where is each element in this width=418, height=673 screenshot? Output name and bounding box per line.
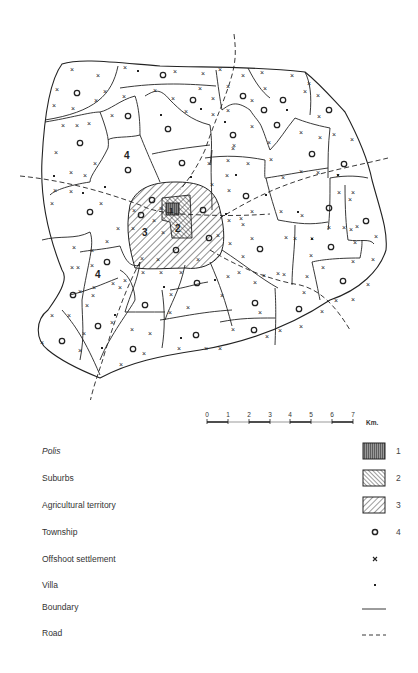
- svg-text:×: ×: [153, 87, 157, 94]
- svg-text:×: ×: [299, 323, 303, 330]
- svg-text:×: ×: [122, 93, 126, 100]
- svg-text:×: ×: [50, 200, 54, 207]
- svg-text:×: ×: [78, 288, 82, 295]
- svg-text:×: ×: [351, 258, 355, 265]
- svg-text:×: ×: [250, 123, 254, 130]
- svg-text:×: ×: [246, 160, 250, 167]
- svg-text:×: ×: [93, 160, 97, 167]
- svg-text:×: ×: [316, 92, 320, 99]
- svg-text:×: ×: [173, 68, 177, 75]
- svg-text:×: ×: [90, 247, 94, 254]
- scale-tick-2: 2: [247, 411, 251, 418]
- svg-text:×: ×: [320, 308, 324, 315]
- svg-text:×: ×: [131, 225, 135, 232]
- svg-text:×: ×: [118, 284, 122, 291]
- svg-text:×: ×: [269, 156, 273, 163]
- solid-line-icon: [362, 598, 386, 616]
- svg-text:×: ×: [198, 85, 202, 92]
- svg-text:×: ×: [78, 347, 82, 354]
- svg-text:×: ×: [227, 187, 231, 194]
- svg-text:×: ×: [67, 312, 71, 319]
- svg-text:×: ×: [279, 208, 283, 215]
- legend-number: 3: [396, 500, 401, 510]
- svg-text:×: ×: [90, 262, 94, 269]
- region-label-township-north: 4: [124, 150, 130, 161]
- svg-text:×: ×: [132, 207, 136, 214]
- svg-text:×: ×: [110, 112, 114, 119]
- legend-item-polis: Polis 1: [0, 442, 418, 462]
- svg-text:×: ×: [218, 345, 222, 352]
- svg-text:×: ×: [50, 312, 54, 319]
- svg-text:×: ×: [54, 149, 58, 156]
- svg-text:×: ×: [305, 273, 309, 280]
- svg-text:×: ×: [351, 189, 355, 196]
- svg-text:×: ×: [316, 169, 320, 176]
- svg-text:×: ×: [53, 187, 57, 194]
- svg-text:×: ×: [123, 277, 127, 284]
- svg-text:×: ×: [96, 72, 100, 79]
- svg-text:×: ×: [179, 269, 183, 276]
- svg-text:×: ×: [218, 66, 222, 73]
- svg-text:×: ×: [69, 188, 73, 195]
- svg-text:×: ×: [349, 226, 353, 233]
- svg-text:×: ×: [159, 269, 163, 276]
- legend-item-township: Township 4: [0, 523, 418, 543]
- svg-text:×: ×: [111, 280, 115, 287]
- legend-label: Township: [42, 527, 77, 537]
- svg-text:×: ×: [177, 345, 181, 352]
- scale-tick-0: 0: [205, 411, 209, 418]
- svg-text:×: ×: [309, 252, 313, 259]
- legend-number: 2: [396, 473, 401, 483]
- svg-text:×: ×: [72, 244, 76, 251]
- legend-label: Offshoot settlement: [42, 554, 116, 564]
- svg-text:×: ×: [226, 107, 230, 114]
- svg-text:×: ×: [260, 69, 264, 76]
- svg-text:×: ×: [70, 264, 74, 271]
- svg-text:×: ×: [299, 168, 303, 175]
- region-label-agricultural: 3: [142, 227, 148, 238]
- svg-text:×: ×: [276, 270, 280, 277]
- region-label-township-west: 4: [95, 269, 101, 280]
- legend-item-agricultural-territory: Agricultural territory 3: [0, 496, 418, 516]
- legend-item-road: Road: [0, 624, 418, 644]
- svg-text:×: ×: [374, 233, 378, 240]
- svg-text:×: ×: [318, 134, 322, 141]
- svg-text:×: ×: [299, 129, 303, 136]
- svg-text:×: ×: [87, 120, 91, 127]
- svg-text:×: ×: [282, 271, 286, 278]
- territory-map: 1 2 3 4 4 ×××× ×××× ×××× ×××× ×××× ×××: [0, 0, 418, 400]
- svg-text:×: ×: [284, 234, 288, 241]
- svg-text:×: ×: [225, 172, 229, 179]
- svg-text:×: ×: [366, 281, 370, 288]
- svg-text:×: ×: [61, 122, 65, 129]
- svg-text:×: ×: [91, 292, 95, 299]
- legend-number: 4: [396, 527, 401, 537]
- legend-label: Polis: [42, 446, 60, 456]
- svg-text:×: ×: [237, 269, 241, 276]
- svg-text:×: ×: [241, 72, 245, 79]
- svg-text:×: ×: [152, 217, 156, 224]
- svg-text:×: ×: [265, 333, 269, 340]
- svg-text:×: ×: [348, 196, 352, 203]
- svg-text:×: ×: [99, 200, 103, 207]
- svg-text:×: ×: [211, 111, 215, 118]
- svg-text:×: ×: [253, 279, 257, 286]
- scale-bar: 0 1 2 3 4 5 6 7 Km.: [200, 405, 390, 435]
- svg-text:×: ×: [159, 205, 163, 212]
- scale-tick-5: 5: [309, 411, 313, 418]
- svg-text:×: ×: [226, 83, 230, 90]
- legend-number: 1: [396, 446, 401, 456]
- svg-text:×: ×: [83, 172, 87, 179]
- svg-text:×: ×: [290, 72, 294, 79]
- svg-text:×: ×: [355, 223, 359, 230]
- svg-text:×: ×: [171, 95, 175, 102]
- svg-text:×: ×: [119, 361, 123, 368]
- svg-text:×: ×: [204, 345, 208, 352]
- svg-text:×: ×: [258, 309, 262, 316]
- svg-text:×: ×: [239, 215, 243, 222]
- svg-text:×: ×: [216, 232, 220, 239]
- svg-text:×: ×: [116, 225, 120, 232]
- svg-text:×: ×: [351, 296, 355, 303]
- svg-text:×: ×: [201, 70, 205, 77]
- scale-tick-7: 7: [351, 411, 355, 418]
